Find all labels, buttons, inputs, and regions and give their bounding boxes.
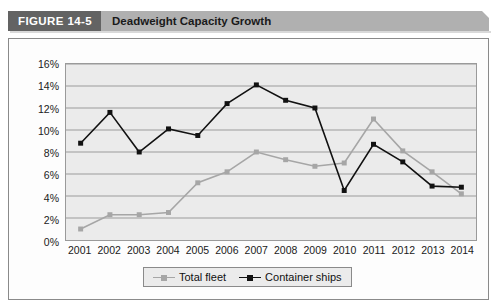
y-axis-tick-label: 8% bbox=[44, 147, 59, 159]
x-axis-tick-label: 2011 bbox=[363, 244, 386, 256]
y-axis-tick-label: 4% bbox=[44, 192, 59, 204]
y-axis-tick-label: 10% bbox=[38, 125, 59, 137]
x-axis-tick-label: 2002 bbox=[97, 244, 120, 256]
data-point-marker bbox=[78, 227, 83, 232]
data-point-marker bbox=[371, 142, 376, 147]
data-point-marker bbox=[283, 157, 288, 162]
data-point-marker bbox=[254, 150, 259, 155]
data-point-marker bbox=[430, 169, 435, 174]
x-axis-tick-labels: 2001200220032004200520062007200820092010… bbox=[65, 244, 477, 260]
y-axis-tick-label: 0% bbox=[44, 236, 59, 248]
data-point-marker bbox=[312, 106, 317, 111]
chart-legend: Total fleetContainer ships bbox=[143, 267, 352, 287]
data-point-marker bbox=[430, 184, 435, 189]
x-axis-tick-label: 2012 bbox=[392, 244, 415, 256]
figure-title: Deadweight Capacity Growth bbox=[101, 11, 271, 31]
data-point-marker bbox=[225, 169, 230, 174]
x-axis-tick-label: 2005 bbox=[186, 244, 209, 256]
data-point-marker bbox=[137, 212, 142, 217]
legend-item: Total fleet bbox=[153, 271, 226, 283]
figure-number-tag: FIGURE 14-5 bbox=[8, 11, 101, 31]
data-point-marker bbox=[400, 159, 405, 164]
data-point-marker bbox=[107, 110, 112, 115]
data-point-marker bbox=[137, 150, 142, 155]
x-axis-tick-label: 2003 bbox=[127, 244, 150, 256]
x-axis-tick-label: 2009 bbox=[303, 244, 326, 256]
x-axis-tick-label: 2010 bbox=[333, 244, 356, 256]
chart-panel: 0%2%4%6%8%10%12%14%16% 20012002200320042… bbox=[8, 38, 489, 300]
legend-swatch-icon bbox=[239, 273, 261, 282]
data-point-marker bbox=[400, 148, 405, 153]
data-point-marker bbox=[166, 126, 171, 131]
title-corner-fold bbox=[482, 11, 489, 18]
data-point-marker bbox=[459, 185, 464, 190]
data-point-marker bbox=[78, 141, 83, 146]
data-point-marker bbox=[225, 101, 230, 106]
chart-lines-svg bbox=[66, 64, 476, 240]
figure-title-bar: FIGURE 14-5 Deadweight Capacity Growth bbox=[8, 11, 489, 31]
data-point-marker bbox=[342, 161, 347, 166]
data-point-marker bbox=[195, 180, 200, 185]
data-point-marker bbox=[371, 117, 376, 122]
legend-swatch-icon bbox=[153, 273, 175, 282]
data-point-marker bbox=[342, 188, 347, 193]
x-axis-tick-label: 2006 bbox=[215, 244, 238, 256]
data-point-marker bbox=[254, 82, 259, 87]
y-axis-tick-label: 16% bbox=[38, 58, 59, 70]
data-point-marker bbox=[312, 164, 317, 169]
data-point-marker bbox=[107, 212, 112, 217]
y-axis-tick-labels: 0%2%4%6%8%10%12%14%16% bbox=[9, 63, 59, 241]
title-drop-shadow bbox=[10, 31, 491, 33]
plot-area bbox=[65, 63, 477, 241]
x-axis-tick-label: 2014 bbox=[451, 244, 474, 256]
y-axis-tick-label: 6% bbox=[44, 169, 59, 181]
data-point-marker bbox=[166, 210, 171, 215]
legend-label: Total fleet bbox=[179, 271, 226, 283]
y-axis-tick-label: 14% bbox=[38, 80, 59, 92]
series-line-container-ships bbox=[81, 85, 462, 191]
x-axis-tick-label: 2004 bbox=[156, 244, 179, 256]
data-point-marker bbox=[195, 133, 200, 138]
figure-container: FIGURE 14-5 Deadweight Capacity Growth 0… bbox=[0, 0, 497, 308]
data-point-marker bbox=[283, 98, 288, 103]
x-axis-tick-label: 2013 bbox=[421, 244, 444, 256]
y-axis-tick-label: 12% bbox=[38, 103, 59, 115]
x-axis-tick-label: 2007 bbox=[245, 244, 268, 256]
y-axis-tick-label: 2% bbox=[44, 214, 59, 226]
x-axis-tick-label: 2008 bbox=[274, 244, 297, 256]
legend-label: Container ships bbox=[265, 271, 341, 283]
legend-item: Container ships bbox=[239, 271, 341, 283]
data-point-marker bbox=[459, 191, 464, 196]
x-axis-tick-label: 2001 bbox=[68, 244, 91, 256]
